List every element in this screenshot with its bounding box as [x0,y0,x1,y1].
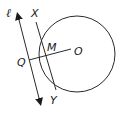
label-line-l: ℓ [6,6,11,20]
label-y: Y [50,94,58,107]
label-x: X [30,7,39,20]
label-o: O [74,45,83,58]
geometry-diagram: ℓ X M O Q Y [0,0,127,115]
label-q: Q [17,56,26,69]
label-m: M [47,41,57,54]
